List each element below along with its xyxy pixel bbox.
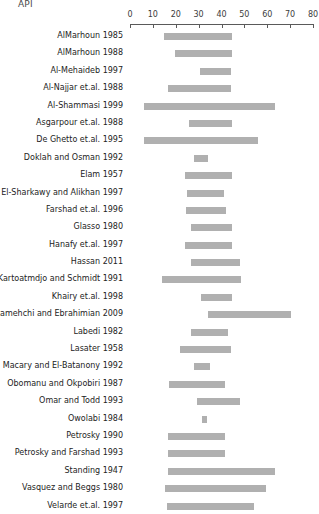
range-bar	[186, 207, 226, 214]
range-bar	[168, 468, 276, 475]
row-track	[0, 238, 317, 255]
chart-row: Lasater 1958	[0, 342, 317, 359]
chart-row: Asgarpour et.al. 1988	[0, 116, 317, 133]
chart-rows: AlMarhoun 1985AlMarhoun 1988Al-Mehaideb …	[0, 29, 317, 514]
row-track	[0, 64, 317, 81]
chart-row: Hanafy et.al. 1997	[0, 238, 317, 255]
chart-row: AlMarhoun 1985	[0, 29, 317, 46]
range-bar	[175, 50, 232, 57]
row-track	[0, 220, 317, 237]
x-tick-label-20: 20	[171, 10, 181, 19]
range-bar	[185, 242, 232, 249]
row-track	[0, 151, 317, 168]
range-bar	[197, 398, 239, 405]
chart-row: Glasso 1980	[0, 220, 317, 237]
chart-row: Al-Najjar et.al. 1988	[0, 81, 317, 98]
chart-row: Farshad et.al. 1996	[0, 203, 317, 220]
chart-row: Hassan 2011	[0, 255, 317, 272]
range-bar	[144, 137, 258, 144]
x-tick-label-10: 10	[148, 10, 158, 19]
row-track	[0, 325, 317, 342]
x-tick-label-40: 40	[216, 10, 226, 19]
chart-row: Owolabi 1984	[0, 412, 317, 429]
x-tick-mark-10	[153, 24, 154, 28]
range-bar	[194, 155, 208, 162]
row-track	[0, 394, 317, 411]
chart-row: El-Sharkawy and Alikhan 1997	[0, 186, 317, 203]
row-track	[0, 255, 317, 272]
range-bar	[144, 103, 276, 110]
row-track	[0, 464, 317, 481]
row-track	[0, 186, 317, 203]
chart-row: Petrosky and Farshad 1993	[0, 446, 317, 463]
row-track	[0, 377, 317, 394]
range-bar	[187, 190, 224, 197]
x-tick-mark-50	[244, 24, 245, 28]
row-track	[0, 116, 317, 133]
range-bar	[164, 33, 231, 40]
row-track	[0, 99, 317, 116]
row-track	[0, 342, 317, 359]
x-tick-mark-60	[267, 24, 268, 28]
x-tick-mark-30	[199, 24, 200, 28]
x-tick-mark-20	[176, 24, 177, 28]
range-bar	[194, 363, 210, 370]
x-tick-label-50: 50	[239, 10, 249, 19]
chart-row: Khamehchi and Ebrahimian 2009	[0, 307, 317, 324]
range-bar	[165, 485, 266, 492]
x-tick-mark-80	[313, 24, 314, 28]
x-tick-label-60: 60	[262, 10, 272, 19]
chart-row: Al-Shammasi 1999	[0, 99, 317, 116]
chart-row: Obomanu and Okpobiri 1987	[0, 377, 317, 394]
chart-row: AlMarhoun 1988	[0, 46, 317, 63]
x-tick-label-30: 30	[194, 10, 204, 19]
range-bar	[167, 503, 254, 510]
range-bar	[169, 381, 225, 388]
chart-row: Velarde et.al. 1997	[0, 499, 317, 514]
x-tick-label-70: 70	[285, 10, 295, 19]
chart-row: Doklah and Osman 1992	[0, 151, 317, 168]
range-bar	[201, 294, 232, 301]
range-bar	[168, 450, 225, 457]
row-track	[0, 429, 317, 446]
x-tick-mark-40	[222, 24, 223, 28]
chart-row: Khairy et.al. 1998	[0, 290, 317, 307]
range-bar	[162, 276, 241, 283]
x-axis: 01020304050607080	[0, 0, 317, 30]
range-bar	[185, 172, 232, 179]
range-bar	[191, 259, 240, 266]
range-bar	[208, 311, 291, 318]
x-tick-mark-0	[130, 24, 131, 28]
row-track	[0, 446, 317, 463]
row-track	[0, 412, 317, 429]
row-track	[0, 29, 317, 46]
row-track	[0, 203, 317, 220]
range-bar	[202, 416, 207, 423]
chart-row: Petrosky 1990	[0, 429, 317, 446]
chart-row: Macary and El-Batanony 1992	[0, 359, 317, 376]
row-track	[0, 81, 317, 98]
chart-row: Al-Mehaideb 1997	[0, 64, 317, 81]
chart-row: Omar and Todd 1993	[0, 394, 317, 411]
row-track	[0, 46, 317, 63]
range-bar	[180, 346, 230, 353]
row-track	[0, 499, 317, 514]
chart-row: Kartoatmdjo and Schmidt 1991	[0, 272, 317, 289]
row-track	[0, 307, 317, 324]
range-bar	[189, 120, 231, 127]
row-track	[0, 272, 317, 289]
row-track	[0, 133, 317, 150]
row-track	[0, 290, 317, 307]
x-tick-label-80: 80	[308, 10, 318, 19]
x-tick-label-0: 0	[127, 10, 132, 19]
range-bar	[168, 433, 225, 440]
range-bar	[191, 224, 232, 231]
x-tick-mark-70	[290, 24, 291, 28]
range-bar	[191, 329, 229, 336]
chart-row: Standing 1947	[0, 464, 317, 481]
row-track	[0, 481, 317, 498]
row-track	[0, 168, 317, 185]
chart-row: Labedi 1982	[0, 325, 317, 342]
chart-row: Vasquez and Beggs 1980	[0, 481, 317, 498]
